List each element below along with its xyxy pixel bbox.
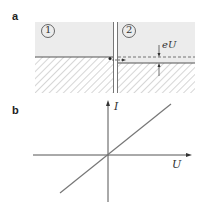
x-axis-label: U bbox=[172, 158, 181, 171]
panel-a-junction bbox=[35, 22, 195, 93]
region-2-label: 2 bbox=[126, 24, 132, 35]
panel-b-iv-plot bbox=[33, 100, 192, 202]
diagram bbox=[0, 0, 202, 210]
region-1-label: 1 bbox=[45, 24, 51, 35]
y-axis-label: I bbox=[114, 100, 118, 113]
eu-annotation: eU bbox=[162, 39, 176, 50]
